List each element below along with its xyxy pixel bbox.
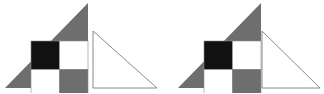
right-checker-cell-gray xyxy=(233,70,262,94)
left-checker-cell-white-bl xyxy=(31,70,60,94)
right-checker-cell-white-tr xyxy=(233,41,262,70)
figure-canvas xyxy=(0,0,324,93)
right-checkerboard xyxy=(204,41,261,93)
right-checker-cell-white-bl xyxy=(204,70,233,94)
geometric-figure-illustration xyxy=(0,0,324,93)
left-checker-cell-white-tr xyxy=(60,41,89,70)
right-checker-cell-black xyxy=(204,41,233,70)
left-checker-cell-gray xyxy=(60,70,89,94)
left-checkerboard xyxy=(31,41,88,93)
left-checker-cell-black xyxy=(31,41,60,70)
